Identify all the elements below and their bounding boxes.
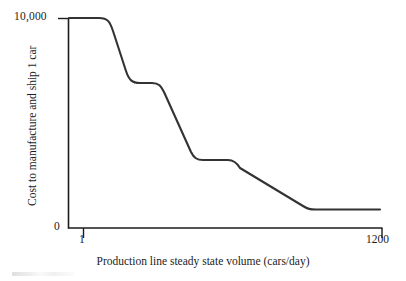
x-axis-tick-label-first: 1 bbox=[79, 234, 85, 246]
y-axis-title: Cost to manufacture and ship 1 car bbox=[27, 31, 39, 221]
scan-artifact bbox=[12, 272, 74, 276]
x-axis-title: Production line steady state volume (car… bbox=[0, 256, 406, 268]
cost-curve-line bbox=[69, 18, 380, 210]
x-axis-tick-label-last: 1200 bbox=[366, 234, 389, 246]
y-axis-tick-label-top: 10,000 bbox=[14, 11, 47, 23]
figure-container: 10,000 0 1 1200 Cost to manufacture and … bbox=[0, 0, 406, 281]
y-axis-tick-label-zero: 0 bbox=[54, 221, 60, 233]
chart-plot-area bbox=[0, 0, 406, 281]
